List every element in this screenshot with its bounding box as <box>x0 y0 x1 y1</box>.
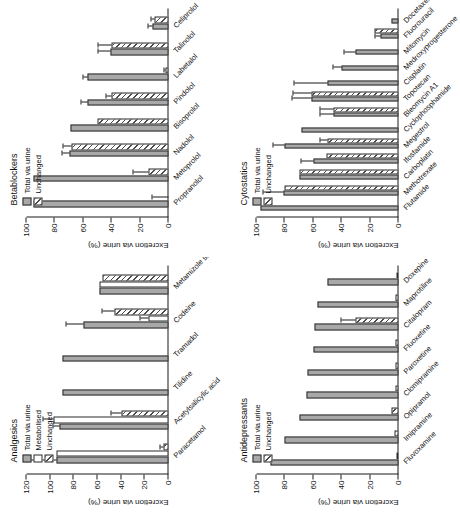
bar-total <box>284 143 398 148</box>
bar-total <box>270 459 398 466</box>
bar-group: Cyclophosphamide <box>256 119 398 135</box>
y-tick-label: 100 <box>46 480 54 493</box>
y-tick <box>53 217 54 222</box>
plot-area: 020406080100PropranololMetoprololNadolol… <box>26 8 168 217</box>
y-tick <box>167 217 168 222</box>
bar-total <box>56 456 168 463</box>
error-bar <box>273 144 284 145</box>
bar-unchanged <box>355 317 398 324</box>
bar-group: Bleomycin A1 <box>256 104 398 120</box>
bar-total <box>313 158 398 163</box>
bar-group: Codeine <box>26 301 168 335</box>
error-bar-cap <box>332 64 333 69</box>
legend-item-unchanged: Unchanged <box>33 147 42 205</box>
bar-total <box>301 127 398 132</box>
bar-unchanged <box>154 16 168 23</box>
y-tick <box>312 474 313 479</box>
y-axis-title: Excretion via urine (%) <box>318 497 398 506</box>
error-bar <box>301 160 312 161</box>
error-bar <box>375 35 379 36</box>
bar-unchanged <box>163 443 168 450</box>
y-tick-label: 100 <box>22 223 30 236</box>
bar-total <box>317 301 398 308</box>
bar-group: Pindolol <box>26 86 168 111</box>
y-tick-label: 80 <box>280 480 288 489</box>
bar-unchanged <box>395 294 398 301</box>
error-bar-cap <box>105 93 106 98</box>
error-bar-cap <box>82 74 83 79</box>
bar-group: Tilidine <box>26 369 168 403</box>
error-bar <box>102 310 114 311</box>
bar-unchanged <box>333 107 398 112</box>
panel-betablockers: Betablockers020406080100PropranololMetop… <box>0 0 230 257</box>
error-bar-cap <box>80 99 81 104</box>
bar-group: Metoprolol <box>26 162 168 187</box>
error-bar <box>81 101 87 102</box>
legend-label: Total via urine <box>252 147 261 193</box>
bar-group: Fluoxetine <box>256 335 398 358</box>
bar-unchanged <box>114 308 168 315</box>
legend-item-metabolised: Metabolised <box>33 404 42 462</box>
y-tick-label: 100 <box>252 480 260 493</box>
x-tick-label: Labetalol <box>171 52 199 80</box>
bar-total <box>62 355 169 362</box>
x-tick-label: Nadolol <box>171 132 195 156</box>
error-bar-cap <box>97 48 98 53</box>
error-bar <box>333 66 342 67</box>
error-bar <box>160 446 164 447</box>
error-bar-cap <box>319 111 320 116</box>
legend-swatch-icon <box>263 454 272 462</box>
legend: Total via urineUnchanged <box>22 147 44 205</box>
error-bar-cap <box>139 315 140 320</box>
bar-total <box>355 49 398 54</box>
bar-group: Mitomycin <box>256 41 398 57</box>
bar-total <box>110 48 168 55</box>
x-tick-label: Pindolol <box>171 80 196 105</box>
panel-antidepressants: Antidepressants020406080100FluvoxamineIm… <box>230 257 460 514</box>
bar-metabolised <box>56 450 168 457</box>
bar-total <box>311 96 398 101</box>
error-bar-cap <box>319 137 320 142</box>
bar-total <box>327 80 398 85</box>
error-bar <box>152 196 168 197</box>
error-bar <box>320 139 327 140</box>
error-bar <box>66 323 83 324</box>
y-tick-label: 60 <box>309 223 317 232</box>
legend-item-total: Total via urine <box>252 404 261 462</box>
x-tick-label: Celiprolol <box>171 1 199 29</box>
bar-group: Paroxetine <box>256 357 398 380</box>
error-bar-cap <box>147 23 148 28</box>
legend-swatch-icon <box>263 197 272 205</box>
bar-total <box>152 23 168 30</box>
y-tick-label: 20 <box>140 480 148 489</box>
error-bar-cap <box>291 95 292 100</box>
error-bar <box>148 25 152 26</box>
bar-group: Flutamide <box>256 197 398 213</box>
error-bar <box>293 92 311 93</box>
bar-total <box>299 174 398 179</box>
bar-group: Fluorouracil <box>256 26 398 42</box>
error-bar-cap <box>151 194 152 199</box>
bar-group: Maprotiline <box>256 290 398 313</box>
y-tick <box>397 474 398 479</box>
error-bar-cap <box>61 150 62 155</box>
bar-group: Fluvoxamine <box>256 447 398 470</box>
y-axis-title: Excretion via urine (%) <box>88 497 168 506</box>
chart-title: Antidepressants <box>238 397 248 462</box>
bar-total <box>341 65 398 70</box>
bar-total <box>283 190 398 195</box>
bar-total <box>391 18 398 23</box>
y-tick <box>96 474 97 479</box>
x-tick-label: Tramadol <box>171 329 200 358</box>
bar-total <box>33 200 168 207</box>
y-tick-label: 0 <box>394 223 402 227</box>
chart-antidepressants: Antidepressants020406080100FluvoxamineIm… <box>230 257 460 514</box>
y-tick <box>283 217 284 222</box>
y-tick-label: 40 <box>337 480 345 489</box>
bar-total <box>62 389 169 396</box>
legend-label: Total via urine <box>22 147 31 193</box>
figure-canvas: Betablockers020406080100PropranololMetop… <box>0 0 460 514</box>
legend-swatch-icon <box>22 454 31 462</box>
error-bar <box>344 51 355 52</box>
bar-group: Methotrexate <box>256 182 398 198</box>
